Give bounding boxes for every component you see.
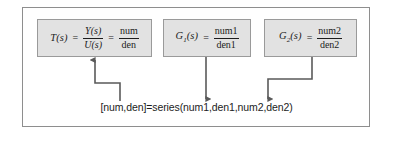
fraction-Y-over-U: Y(s) U(s): [83, 26, 103, 51]
equation-g2: G2(s) = num2 den2: [279, 26, 342, 51]
fraction-numerator-num2: num2: [317, 26, 342, 38]
fraction-num2-over-den2: num2 den2: [317, 26, 342, 51]
lhs-base-G1: G: [175, 30, 183, 41]
equation-box-transfer-function: T(s) = Y(s) U(s) = num den: [37, 19, 152, 57]
lhs-base-G2: G: [279, 30, 287, 41]
fraction-denominator-den: den: [121, 39, 137, 51]
equals-sign-2: =: [108, 33, 114, 43]
series-command-caption: [num,den]=series(num1,den1,num2,den2): [0, 101, 393, 113]
equation-transfer-function: T(s) = Y(s) U(s) = num den: [50, 26, 139, 51]
lhs-arg-G1: (s): [187, 30, 198, 41]
equation-g1: G1(s) = num1 den1: [175, 26, 238, 51]
fraction-denominator-U: U(s): [83, 39, 103, 51]
equals-sign-1: =: [73, 33, 79, 43]
fraction-numerator-Y: Y(s): [84, 26, 102, 38]
equation-box-g2: G2(s) = num2 den2: [264, 19, 357, 57]
equation-lhs-G2: G2(s): [279, 31, 302, 44]
equation-lhs-T: T(s): [50, 33, 67, 44]
fraction-numerator-num1: num1: [214, 26, 239, 38]
equals-sign-g2: =: [307, 33, 313, 43]
fraction-num1-over-den1: num1 den1: [214, 26, 239, 51]
lhs-arg-T: (s): [56, 32, 67, 43]
fraction-num-over-den: num den: [119, 26, 139, 51]
diagram-canvas: T(s) = Y(s) U(s) = num den G1(s) = num1: [0, 0, 393, 143]
fraction-numerator-num: num: [119, 26, 139, 38]
fraction-denominator-den2: den2: [319, 39, 340, 51]
lhs-arg-G2: (s): [290, 30, 301, 41]
equation-lhs-G1: G1(s): [175, 31, 198, 44]
equals-sign-g1: =: [203, 33, 209, 43]
fraction-denominator-den1: den1: [215, 39, 236, 51]
equation-box-g1: G1(s) = num1 den1: [163, 19, 251, 57]
